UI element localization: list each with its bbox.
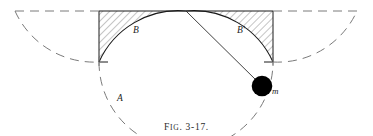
label-region-b: B <box>133 25 139 35</box>
figure-caption-wrap: FIG. 3-17. <box>0 116 373 134</box>
figure-caption: FIG. 3-17. <box>164 122 209 132</box>
caption-rest: . 3-17. <box>179 122 208 132</box>
dashed-arc-left <box>15 11 99 66</box>
label-mass-m: m <box>272 86 279 96</box>
figure-container: B B' A m FIG. 3-17. <box>0 0 373 136</box>
mass-ball <box>252 76 273 97</box>
label-region-b-prime: B' <box>237 25 245 35</box>
label-arc-a: A <box>117 93 123 103</box>
dashed-arc-right <box>273 11 357 66</box>
region-b-hatched <box>99 11 186 62</box>
